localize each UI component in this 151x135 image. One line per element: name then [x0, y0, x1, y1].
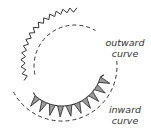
- outward-curve-label: outward curve: [100, 37, 150, 59]
- notch-wedge: [89, 92, 99, 102]
- outward-curve-label-line2: curve: [100, 48, 150, 59]
- outward-curve-zigzag-edge: [21, 8, 77, 81]
- notch-wedge: [66, 105, 72, 116]
- notch-wedge: [94, 85, 105, 93]
- outward-curve-group: [21, 8, 96, 81]
- notch-wedge: [99, 77, 110, 84]
- notch-wedge: [82, 97, 91, 108]
- notch-wedge: [40, 101, 48, 112]
- notch-wedge: [74, 102, 81, 113]
- notch-wedge: [31, 96, 40, 107]
- notch-wedge: [50, 104, 56, 116]
- inward-curve-label-line2: curve: [100, 115, 150, 126]
- outward-curve-label-line1: outward: [100, 37, 150, 48]
- inward-curve-label: inward curve: [100, 104, 150, 126]
- inward-curve-notched-edge: [31, 75, 110, 117]
- inward-curve-label-line1: inward: [100, 104, 150, 115]
- outward-curve-seamline: [34, 25, 95, 74]
- notch-wedge: [58, 106, 64, 117]
